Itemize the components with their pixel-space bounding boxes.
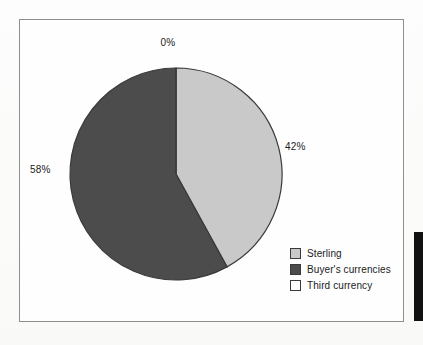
legend-item-buyers-currencies: Buyer's currencies xyxy=(290,261,398,277)
legend-label-sterling: Sterling xyxy=(307,248,342,259)
legend-item-third-currency: Third currency xyxy=(290,277,398,293)
legend-label-third-currency: Third currency xyxy=(307,280,372,291)
page-edge-artifact xyxy=(414,232,423,321)
pie-label-buyers-currencies: 58% xyxy=(30,164,51,175)
chart-legend: Sterling Buyer's currencies Third curren… xyxy=(290,245,398,293)
pie-label-sterling: 42% xyxy=(285,141,306,152)
pie-label-third-currency: 0% xyxy=(154,37,182,48)
legend-swatch-third-currency xyxy=(290,280,301,291)
legend-swatch-buyers-currencies xyxy=(290,264,301,275)
legend-item-sterling: Sterling xyxy=(290,245,398,261)
legend-swatch-sterling xyxy=(290,248,301,259)
legend-label-buyers-currencies: Buyer's currencies xyxy=(307,264,391,275)
chart-page: 0% 42% 58% Sterling Buyer's currencies T… xyxy=(0,0,423,345)
